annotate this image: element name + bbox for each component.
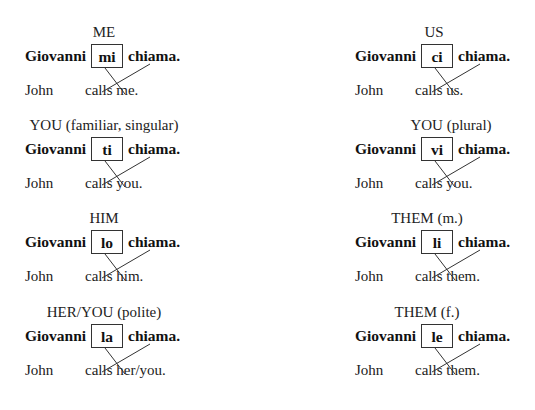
boxed-object-pronoun: ti bbox=[91, 137, 123, 161]
pronoun-meaning-label: THEM (m.) bbox=[391, 210, 463, 227]
english-subject: John bbox=[355, 175, 383, 192]
italian-subject: Giovanni bbox=[355, 140, 416, 158]
english-verb-phrase: calls you. bbox=[415, 175, 473, 192]
italian-verb: chiama. bbox=[128, 327, 180, 345]
english-subject: John bbox=[355, 82, 383, 99]
english-subject: John bbox=[355, 362, 383, 379]
italian-verb: chiama. bbox=[128, 233, 180, 251]
italian-subject: Giovanni bbox=[25, 327, 86, 345]
english-subject: John bbox=[25, 268, 53, 285]
pronoun-example: US Giovanni ci chiama. John calls us. bbox=[355, 24, 535, 117]
english-subject: John bbox=[25, 362, 53, 379]
boxed-object-pronoun: le bbox=[421, 324, 453, 348]
pronoun-example: HIM Giovanni lo chiama. John calls him. bbox=[25, 210, 225, 303]
italian-verb: chiama. bbox=[458, 140, 510, 158]
english-subject: John bbox=[25, 175, 53, 192]
english-verb-phrase: calls them. bbox=[415, 362, 480, 379]
italian-verb: chiama. bbox=[458, 233, 510, 251]
italian-verb: chiama. bbox=[128, 140, 180, 158]
pronoun-example: ME Giovanni mi chiama. John calls me. bbox=[25, 24, 225, 117]
boxed-object-pronoun: lo bbox=[91, 230, 123, 254]
italian-subject: Giovanni bbox=[25, 140, 86, 158]
pronoun-meaning-label: THEM (f.) bbox=[395, 304, 460, 321]
pronoun-meaning-label: US bbox=[424, 24, 443, 41]
word-order-cross-lines-icon bbox=[25, 24, 225, 117]
pronoun-meaning-label: YOU (plural) bbox=[410, 117, 491, 134]
pronoun-example: THEM (m.) Giovanni li chiama. John calls… bbox=[355, 210, 535, 303]
pronoun-meaning-label: HER/YOU (polite) bbox=[47, 304, 162, 321]
english-verb-phrase: calls her/you. bbox=[85, 362, 166, 379]
pronoun-example: YOU (plural) Giovanni vi chiama. John ca… bbox=[355, 117, 535, 210]
pronoun-example: HER/YOU (polite) Giovanni la chiama. Joh… bbox=[25, 304, 225, 397]
english-subject: John bbox=[355, 268, 383, 285]
english-verb-phrase: calls me. bbox=[85, 82, 138, 99]
english-verb-phrase: calls him. bbox=[85, 268, 143, 285]
italian-subject: Giovanni bbox=[25, 47, 86, 65]
italian-subject: Giovanni bbox=[355, 47, 416, 65]
italian-verb: chiama. bbox=[128, 47, 180, 65]
pronoun-meaning-label: HIM bbox=[89, 210, 118, 227]
word-order-cross-lines-icon bbox=[355, 24, 535, 117]
italian-verb: chiama. bbox=[458, 327, 510, 345]
boxed-object-pronoun: la bbox=[91, 324, 123, 348]
boxed-object-pronoun: mi bbox=[91, 44, 123, 68]
word-order-cross-lines-icon bbox=[25, 210, 225, 303]
boxed-object-pronoun: ci bbox=[421, 44, 453, 68]
pronoun-meaning-label: YOU (familiar, singular) bbox=[30, 117, 179, 134]
english-subject: John bbox=[25, 82, 53, 99]
pronoun-example: THEM (f.) Giovanni le chiama. John calls… bbox=[355, 304, 535, 397]
pronoun-meaning-label: ME bbox=[93, 24, 116, 41]
english-verb-phrase: calls you. bbox=[85, 175, 143, 192]
english-verb-phrase: calls us. bbox=[415, 82, 463, 99]
italian-verb: chiama. bbox=[458, 47, 510, 65]
english-verb-phrase: calls them. bbox=[415, 268, 480, 285]
boxed-object-pronoun: li bbox=[421, 230, 453, 254]
boxed-object-pronoun: vi bbox=[421, 137, 453, 161]
italian-subject: Giovanni bbox=[355, 327, 416, 345]
italian-subject: Giovanni bbox=[25, 233, 86, 251]
italian-subject: Giovanni bbox=[355, 233, 416, 251]
pronoun-example: YOU (familiar, singular) Giovanni ti chi… bbox=[25, 117, 225, 210]
